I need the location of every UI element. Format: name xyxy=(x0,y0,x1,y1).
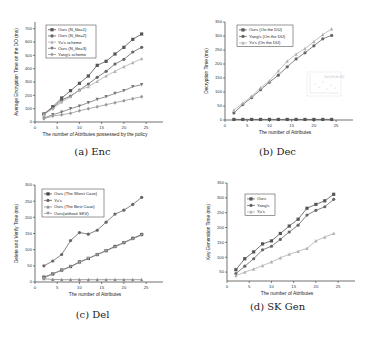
y-tick-label: 300 xyxy=(217,195,225,200)
legend-label: Ours (The Best Case) xyxy=(54,204,95,209)
y-tick-label: 200 xyxy=(25,93,33,98)
x-tick-label: 5 xyxy=(56,125,59,130)
y-axis-label: Average Encryption Time on the DO (ms) xyxy=(14,28,19,116)
marker-square-icon xyxy=(234,268,237,271)
marker-square-icon xyxy=(268,118,271,121)
x-tick-label: 20 xyxy=(122,125,127,130)
marker-circle-icon xyxy=(305,213,308,216)
marker-square-icon xyxy=(295,118,298,121)
marker-circle-icon xyxy=(295,57,298,60)
figure: 05101520250100200300400500600700The numb… xyxy=(0,0,370,342)
x-tick-label: 10 xyxy=(267,123,272,128)
marker-square-icon xyxy=(113,52,116,55)
legend-label: Ours (The Worst Case) xyxy=(54,191,98,196)
marker-triangle-icon xyxy=(321,33,324,37)
legend-label: Yu's xyxy=(54,198,62,203)
x-axis-label: The number of Attributes xyxy=(69,292,122,297)
marker-circle-icon xyxy=(321,37,324,40)
marker-circle-icon xyxy=(241,35,244,38)
marker-square-icon xyxy=(314,203,317,206)
marker-square-icon xyxy=(232,118,235,121)
marker-square-icon xyxy=(330,118,333,121)
marker-circle-icon xyxy=(140,196,143,199)
marker-triangle-icon xyxy=(332,232,335,235)
marker-square-icon xyxy=(323,199,326,202)
y-tick-label: 200 xyxy=(217,225,225,230)
marker-circle-icon xyxy=(303,51,306,54)
y-tick-label: 150 xyxy=(25,231,33,236)
marker-square-icon xyxy=(259,118,262,121)
marker-circle-icon xyxy=(270,245,273,248)
marker-circle-icon xyxy=(332,198,335,201)
y-tick-label: 50 xyxy=(219,269,224,274)
chart-panel-a: 05101520250100200300400500600700The numb… xyxy=(0,0,185,171)
marker-diamond-icon xyxy=(60,113,63,117)
x-axis-label: The number of Attributes possessed by th… xyxy=(43,132,148,137)
del-chart: 0510152025050100150200250300The number o… xyxy=(0,171,185,311)
marker-square-icon xyxy=(332,193,335,196)
y-tick-label: 300 xyxy=(25,79,33,84)
marker-circle-icon xyxy=(131,203,134,206)
marker-circle-icon xyxy=(60,253,63,256)
marker-triangle-icon xyxy=(241,101,244,105)
y-tick-label: 400 xyxy=(25,66,33,71)
y-tick-label: 0 xyxy=(30,279,33,284)
x-tick-label: 10 xyxy=(269,284,274,289)
x-tick-label: 20 xyxy=(312,123,317,128)
marker-circle-icon xyxy=(323,205,326,208)
x-tick-label: 5 xyxy=(246,123,249,128)
y-tick-label: 600 xyxy=(25,39,33,44)
series-line xyxy=(42,277,143,281)
marker-square-icon xyxy=(243,257,246,260)
marker-diamond-icon xyxy=(78,109,81,113)
y-tick-label: 250 xyxy=(217,210,225,215)
dec-chart: 0510152025050100150200250300350The numbe… xyxy=(185,0,370,150)
marker-circle-icon xyxy=(46,199,49,202)
y-tick-label: 100 xyxy=(25,247,33,252)
marker-square-icon xyxy=(286,118,289,121)
x-tick-label: 15 xyxy=(289,123,294,128)
marker-triangle-icon xyxy=(295,52,298,56)
inset-plot: Ours (On the DU) xyxy=(307,72,344,96)
marker-circle-icon xyxy=(96,76,99,79)
y-tick-label: 0 xyxy=(30,119,33,124)
marker-circle-icon xyxy=(50,34,53,37)
marker-diamond-icon xyxy=(105,103,108,107)
marker-circle-icon xyxy=(286,65,289,68)
marker-triangle-icon xyxy=(259,86,262,90)
marker-circle-icon xyxy=(122,209,125,212)
marker-circle-icon xyxy=(105,221,108,224)
marker-circle-icon xyxy=(131,50,134,53)
series-line xyxy=(42,83,143,120)
x-tick-label: 10 xyxy=(77,285,82,290)
x-tick-label: 25 xyxy=(144,285,149,290)
marker-circle-icon xyxy=(279,238,282,241)
marker-square-icon xyxy=(87,74,90,77)
marker-triangle-icon xyxy=(96,79,99,83)
marker-square-icon xyxy=(303,118,306,121)
marker-square-icon xyxy=(131,38,134,41)
legend: Ours (The Worst Case)Yu'sOurs (The Best … xyxy=(42,189,104,217)
marker-triangle-icon xyxy=(140,57,143,61)
marker-square-icon xyxy=(140,32,143,35)
inset-point xyxy=(326,88,327,89)
x-tick-label: 10 xyxy=(77,125,82,130)
marker-circle-icon xyxy=(113,213,116,216)
inset-point xyxy=(330,84,331,85)
marker-square-icon xyxy=(122,46,125,49)
x-axis-label: The number of Attributes xyxy=(259,130,312,135)
legend-label: Ours(without SKV) xyxy=(54,211,89,216)
legend-label: Yang's xyxy=(257,203,269,208)
inset-point xyxy=(334,87,335,88)
marker-circle-icon xyxy=(261,248,264,251)
marker-square-icon xyxy=(50,28,53,31)
x-tick-label: 25 xyxy=(334,123,339,128)
y-axis-label: Decryption Time (ms) xyxy=(204,48,209,94)
inset-legend: Ours (On the DU) xyxy=(324,75,344,79)
y-tick-label: 300 xyxy=(215,33,223,38)
marker-diamond-icon xyxy=(131,97,134,101)
y-tick-label: 150 xyxy=(215,75,223,80)
y-tick-label: 150 xyxy=(217,240,225,245)
marker-diamond-icon xyxy=(87,107,90,111)
legend-label: Yu's scheme xyxy=(58,40,82,45)
